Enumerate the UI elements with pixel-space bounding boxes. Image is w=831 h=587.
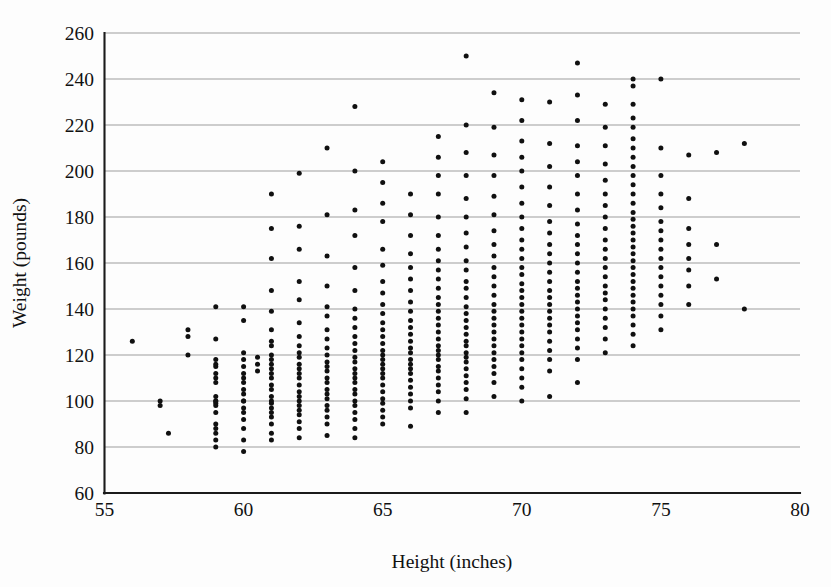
data-point [491, 274, 496, 279]
data-point [436, 336, 441, 341]
data-point [213, 336, 218, 341]
data-point [436, 353, 441, 358]
data-point [464, 196, 469, 201]
x-axis-title: Height (inches) [392, 551, 513, 573]
data-point [742, 307, 747, 312]
data-point [519, 155, 524, 160]
data-point [491, 380, 496, 385]
data-point [658, 247, 663, 252]
data-point [325, 376, 330, 381]
y-axis-title: Weight (pounds) [9, 198, 31, 328]
data-point [241, 438, 246, 443]
data-point [575, 293, 580, 298]
data-point [436, 295, 441, 300]
data-point [631, 217, 636, 222]
data-point [380, 422, 385, 427]
data-point [631, 210, 636, 215]
data-point [491, 371, 496, 376]
data-point [297, 376, 302, 381]
data-point [547, 242, 552, 247]
data-point [491, 350, 496, 355]
data-point [297, 343, 302, 348]
data-point [436, 309, 441, 314]
x-tick-label: 65 [373, 499, 393, 520]
data-point [269, 362, 274, 367]
data-point [352, 169, 357, 174]
data-point [380, 353, 385, 358]
data-point [408, 350, 413, 355]
data-point [213, 399, 218, 404]
data-point [269, 394, 274, 399]
plot-background [0, 0, 831, 587]
data-point [436, 173, 441, 178]
data-point [241, 426, 246, 431]
data-point [631, 77, 636, 82]
y-tick-label: 180 [65, 207, 94, 228]
data-point [297, 334, 302, 339]
data-point [297, 394, 302, 399]
data-point [380, 180, 385, 185]
data-point [130, 339, 135, 344]
data-point [297, 366, 302, 371]
data-point [547, 231, 552, 236]
data-point [325, 327, 330, 332]
data-point [464, 396, 469, 401]
data-point [380, 376, 385, 381]
data-point [297, 350, 302, 355]
data-point [380, 382, 385, 387]
data-point [464, 410, 469, 415]
data-point [436, 247, 441, 252]
data-point [603, 238, 608, 243]
data-point [575, 279, 580, 284]
data-point [491, 330, 496, 335]
data-point [408, 378, 413, 383]
data-point [269, 256, 274, 261]
data-point [631, 265, 636, 270]
data-point [269, 343, 274, 348]
data-point [352, 376, 357, 381]
data-point [380, 341, 385, 346]
data-point [352, 307, 357, 312]
data-point [631, 272, 636, 277]
data-point [325, 364, 330, 369]
data-point [380, 401, 385, 406]
data-point [380, 415, 385, 420]
data-point [269, 431, 274, 436]
data-point [297, 382, 302, 387]
data-point [325, 408, 330, 413]
data-point [352, 366, 357, 371]
data-point [325, 403, 330, 408]
data-point [491, 173, 496, 178]
data-point [575, 313, 580, 318]
data-point [436, 364, 441, 369]
data-point [297, 279, 302, 284]
data-point [603, 284, 608, 289]
data-point [519, 366, 524, 371]
data-point [241, 357, 246, 362]
data-point [464, 311, 469, 316]
data-point [269, 327, 274, 332]
data-point [631, 258, 636, 263]
data-point [575, 159, 580, 164]
data-point [491, 343, 496, 348]
data-point [297, 389, 302, 394]
data-point [742, 141, 747, 146]
data-point [464, 304, 469, 309]
data-point [241, 392, 246, 397]
data-point [575, 346, 580, 351]
y-tick-label: 140 [65, 299, 94, 320]
data-point [491, 212, 496, 217]
data-point [325, 254, 330, 259]
data-point [519, 350, 524, 355]
data-point [436, 399, 441, 404]
data-point [408, 399, 413, 404]
data-point [269, 405, 274, 410]
data-point [519, 323, 524, 328]
data-point [297, 371, 302, 376]
data-point [603, 290, 608, 295]
data-point [547, 288, 552, 293]
data-point [297, 412, 302, 417]
y-tick-label: 240 [65, 69, 94, 90]
data-point [631, 307, 636, 312]
data-point [269, 399, 274, 404]
